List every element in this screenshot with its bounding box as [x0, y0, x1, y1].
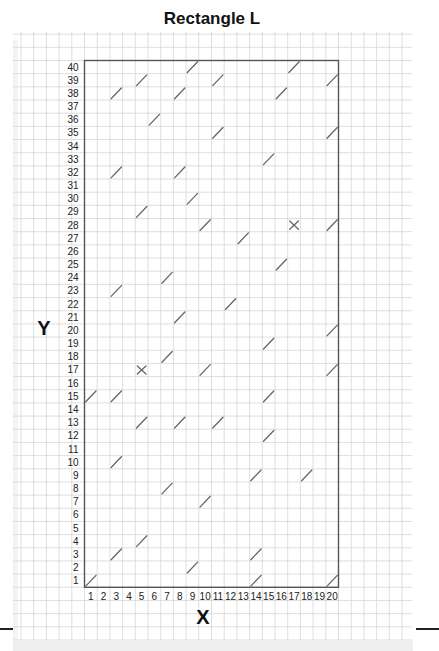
- slash-mark-icon: [238, 233, 248, 244]
- slash-mark-icon: [327, 75, 337, 86]
- y-tick-label: 39: [67, 75, 79, 86]
- y-tick-label: 31: [67, 180, 79, 191]
- y-tick-label: 6: [73, 509, 79, 520]
- x-tick-label: 1: [88, 591, 94, 602]
- x-tick-label: 20: [327, 591, 339, 602]
- slash-mark-icon: [327, 365, 337, 376]
- slash-mark-icon: [187, 562, 197, 573]
- slash-mark-icon: [111, 391, 121, 402]
- slash-mark-icon: [137, 75, 147, 86]
- y-tick-label: 32: [67, 167, 79, 178]
- y-tick-label: 26: [67, 246, 79, 257]
- x-tick-label: 14: [250, 591, 262, 602]
- slash-mark-icon: [162, 272, 172, 283]
- y-tick-label: 34: [67, 141, 79, 152]
- y-tick-label: 40: [67, 62, 79, 73]
- slash-mark-icon: [327, 575, 337, 586]
- slash-mark-icon: [251, 470, 261, 481]
- slash-mark-icon: [137, 207, 147, 218]
- slash-mark-icon: [251, 549, 261, 560]
- y-tick-label: 27: [67, 233, 79, 244]
- y-tick-label: 12: [67, 430, 79, 441]
- slash-mark-icon: [111, 167, 121, 178]
- y-tick-label: 37: [67, 101, 79, 112]
- x-tick-label: 5: [139, 591, 145, 602]
- slash-mark-icon: [251, 575, 261, 586]
- y-axis-label: Y: [37, 317, 51, 339]
- y-tick-label: 22: [67, 299, 79, 310]
- slash-mark-icon: [86, 575, 96, 586]
- x-tick-label: 11: [213, 591, 224, 602]
- y-tick-label: 38: [67, 88, 79, 99]
- slash-mark-icon: [327, 220, 337, 231]
- slash-mark-icon: [187, 193, 197, 204]
- y-tick-label: 1: [73, 575, 79, 586]
- y-tick-label: 35: [67, 127, 79, 138]
- slash-mark-icon: [302, 470, 312, 481]
- coordinate-grid-diagram: 1234567891011121314151617181920212223242…: [0, 0, 439, 651]
- y-tick-label: 2: [73, 562, 79, 573]
- y-tick-label: 33: [67, 154, 79, 165]
- x-tick-label: 9: [190, 591, 196, 602]
- x-tick-label: 15: [263, 591, 275, 602]
- y-tick-label: 13: [67, 417, 79, 428]
- slash-mark-icon: [86, 391, 96, 402]
- slash-mark-icon: [213, 417, 223, 428]
- x-axis-ticks: 1234567891011121314151617181920: [88, 591, 338, 602]
- y-tick-label: 23: [67, 285, 79, 296]
- slash-mark-icon: [162, 483, 172, 494]
- slash-mark-icon: [200, 220, 210, 231]
- slash-mark-icon: [264, 391, 274, 402]
- cross-mark-icon: [290, 221, 299, 229]
- y-tick-label: 16: [67, 378, 79, 389]
- x-tick-label: 13: [238, 591, 250, 602]
- slash-mark-icon: [137, 417, 147, 428]
- x-tick-label: 8: [177, 591, 183, 602]
- y-tick-label: 30: [67, 193, 79, 204]
- y-tick-label: 8: [73, 483, 79, 494]
- slash-mark-icon: [327, 128, 337, 139]
- x-tick-label: 18: [301, 591, 313, 602]
- x-tick-label: 10: [200, 591, 212, 602]
- x-tick-label: 4: [126, 591, 132, 602]
- y-tick-label: 29: [67, 206, 79, 217]
- y-tick-label: 4: [73, 536, 79, 547]
- x-tick-label: 7: [164, 591, 170, 602]
- y-tick-label: 19: [67, 338, 79, 349]
- slash-mark-icon: [175, 312, 185, 323]
- diagram-title: Rectangle L: [164, 9, 260, 28]
- slash-mark-icon: [175, 417, 185, 428]
- slash-mark-icon: [225, 299, 235, 310]
- y-tick-label: 24: [67, 272, 79, 283]
- x-tick-label: 6: [152, 591, 158, 602]
- slash-mark-icon: [200, 365, 210, 376]
- cross-mark-icon: [137, 366, 146, 374]
- slash-mark-icon: [200, 496, 210, 507]
- slash-mark-icon: [264, 338, 274, 349]
- y-tick-label: 25: [67, 259, 79, 270]
- x-tick-label: 19: [314, 591, 326, 602]
- x-tick-label: 2: [101, 591, 107, 602]
- slash-mark-icon: [162, 351, 172, 362]
- y-tick-label: 5: [73, 523, 79, 534]
- slash-mark-icon: [111, 286, 121, 297]
- y-tick-label: 17: [67, 364, 79, 375]
- slash-mark-icon: [149, 114, 159, 125]
- x-tick-label: 12: [225, 591, 237, 602]
- y-tick-label: 3: [73, 549, 79, 560]
- slash-mark-icon: [276, 88, 286, 99]
- x-tick-label: 17: [288, 591, 300, 602]
- slash-mark-icon: [264, 430, 274, 441]
- slash-mark-icon: [213, 128, 223, 139]
- slash-mark-icon: [264, 154, 274, 165]
- y-tick-label: 9: [73, 470, 79, 481]
- slash-mark-icon: [137, 536, 147, 547]
- slash-mark-icon: [175, 88, 185, 99]
- slash-mark-icon: [111, 549, 121, 560]
- slash-mark-icon: [187, 62, 197, 73]
- x-tick-label: 3: [113, 591, 119, 602]
- y-tick-label: 11: [68, 444, 79, 455]
- slash-mark-icon: [111, 88, 121, 99]
- x-tick-label: 16: [276, 591, 288, 602]
- y-tick-label: 18: [67, 351, 79, 362]
